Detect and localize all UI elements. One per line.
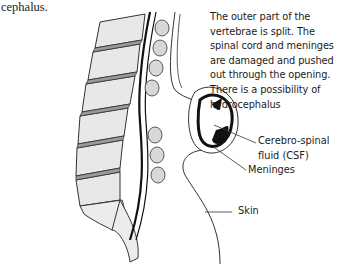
label-skin: Skin [238, 204, 259, 219]
label-csf: Cerebro-spinal fluid (CSF) [258, 134, 329, 163]
description-text: The outer part of the vertebrae is split… [210, 10, 351, 112]
label-meninges: Meninges [248, 163, 295, 178]
meninges-leader-line [215, 148, 246, 170]
spinous-processes [145, 20, 169, 183]
